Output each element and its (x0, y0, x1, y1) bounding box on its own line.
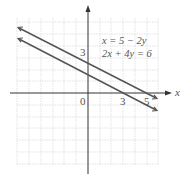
origin-label: 0 (80, 96, 86, 107)
y-axis-arrow-icon (86, 5, 91, 12)
x-tick-5: 5 (144, 96, 150, 107)
x-tick-3: 3 (120, 96, 126, 107)
equation-2: 2x + 4y = 6 (102, 47, 152, 60)
equation-legend: x = 5 − 2y 2x + 4y = 6 (102, 34, 152, 60)
y-tick-3: 3 (80, 47, 86, 58)
graph (0, 0, 181, 177)
x-axis-label: x (175, 87, 180, 98)
equation-1: x = 5 − 2y (102, 34, 152, 47)
x-axis-arrow-icon (165, 91, 172, 96)
